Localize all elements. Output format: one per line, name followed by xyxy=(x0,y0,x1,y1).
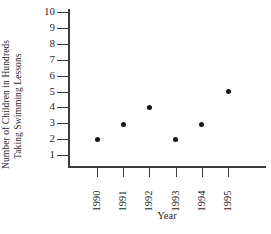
y-tick-label: 1 xyxy=(33,149,55,161)
data-point xyxy=(226,89,231,94)
y-tick-label-text: 10 xyxy=(35,6,55,17)
y-tick-label: 8 xyxy=(33,38,55,50)
y-tick-label-text: 1 xyxy=(35,149,55,160)
data-point xyxy=(147,105,152,110)
y-tick-mark xyxy=(57,28,69,29)
y-tick-mark xyxy=(57,60,69,61)
x-tick-mark xyxy=(149,168,150,177)
y-tick-label: 5 xyxy=(33,86,55,98)
y-tick-label-text: 9 xyxy=(35,22,55,33)
y-tick-mark xyxy=(57,155,69,156)
y-tick-label: 4 xyxy=(33,101,55,113)
y-tick-mark xyxy=(57,76,69,77)
y-tick-label-text: 6 xyxy=(35,70,55,81)
scatter-chart: Number of Children in Hundreds Taking Sw… xyxy=(0,0,271,234)
data-point xyxy=(95,137,100,142)
y-tick-mark xyxy=(57,123,69,124)
y-axis-title-line-2: Taking Swimming Lessons xyxy=(13,53,23,159)
x-axis-title: Year xyxy=(68,210,266,221)
y-tick-label-text: 5 xyxy=(35,86,55,97)
x-tick-mark xyxy=(228,168,229,177)
y-tick-label: 3 xyxy=(33,117,55,129)
y-tick-label: 10 xyxy=(33,6,55,18)
data-point xyxy=(121,122,126,127)
y-tick-label: 9 xyxy=(33,22,55,34)
y-axis-title-line-1: Number of Children in Hundreds xyxy=(1,40,11,169)
x-tick-mark xyxy=(176,168,177,177)
data-point xyxy=(173,137,178,142)
y-tick-mark xyxy=(57,92,69,93)
y-tick-mark xyxy=(57,139,69,140)
y-tick-label-text: 8 xyxy=(35,38,55,49)
data-point xyxy=(199,122,204,127)
y-tick-mark xyxy=(57,107,69,108)
y-tick-label: 2 xyxy=(33,133,55,145)
y-tick-label-text: 4 xyxy=(35,101,55,112)
y-axis-title: Number of Children in Hundreds Taking Sw… xyxy=(0,0,34,175)
y-tick-label-text: 2 xyxy=(35,133,55,144)
y-tick-label-text: 3 xyxy=(35,117,55,128)
y-axis-line xyxy=(68,9,70,168)
y-tick-mark xyxy=(57,44,69,45)
y-tick-label: 6 xyxy=(33,70,55,82)
x-tick-mark xyxy=(97,168,98,177)
y-tick-label: 7 xyxy=(33,54,55,66)
y-tick-label-text: 7 xyxy=(35,54,55,65)
x-tick-mark xyxy=(202,168,203,177)
y-tick-mark xyxy=(57,12,69,13)
x-tick-mark xyxy=(123,168,124,177)
